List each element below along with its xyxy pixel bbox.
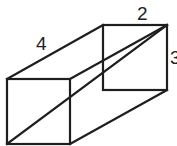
prism-diagram: 4 2 3 xyxy=(0,0,177,146)
height-label: 3 xyxy=(170,47,177,68)
edge-top-right xyxy=(70,25,167,79)
back-face xyxy=(103,25,167,90)
edge-bottom-right xyxy=(70,90,167,144)
length-label: 4 xyxy=(36,33,47,54)
space-diagonal xyxy=(7,25,167,144)
edge-top-left xyxy=(7,25,103,79)
width-label: 2 xyxy=(137,3,148,24)
front-face xyxy=(7,79,70,144)
